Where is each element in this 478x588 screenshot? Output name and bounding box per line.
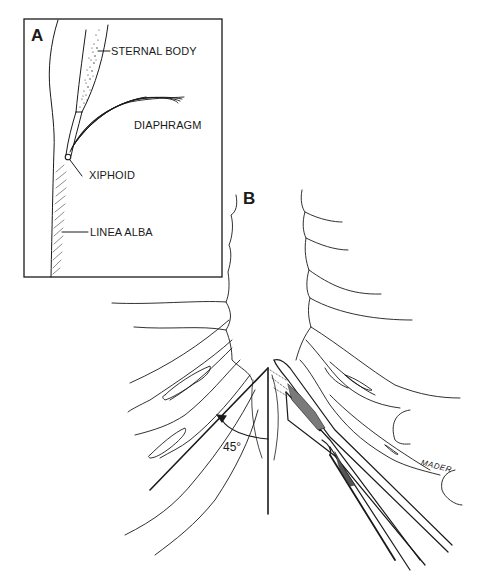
label-linea-alba: LINEA ALBA xyxy=(90,227,153,238)
angle-guide xyxy=(150,368,268,514)
illustration-drawing xyxy=(0,0,478,588)
label-xiphoid: XIPHOID xyxy=(89,170,135,181)
label-sternal-body: STERNAL BODY xyxy=(111,46,197,57)
angle-label: 45° xyxy=(223,441,241,453)
left-ribs xyxy=(112,302,258,555)
panel-a-letter: A xyxy=(31,27,43,44)
anatomical-illustration: A STERNAL BODY DIAPHRAGM XIPHOID LINEA A… xyxy=(0,0,478,588)
angle-arc xyxy=(217,415,268,439)
label-diaphragm: DIAPHRAGM xyxy=(134,120,202,131)
panel-b-letter: B xyxy=(243,190,255,207)
